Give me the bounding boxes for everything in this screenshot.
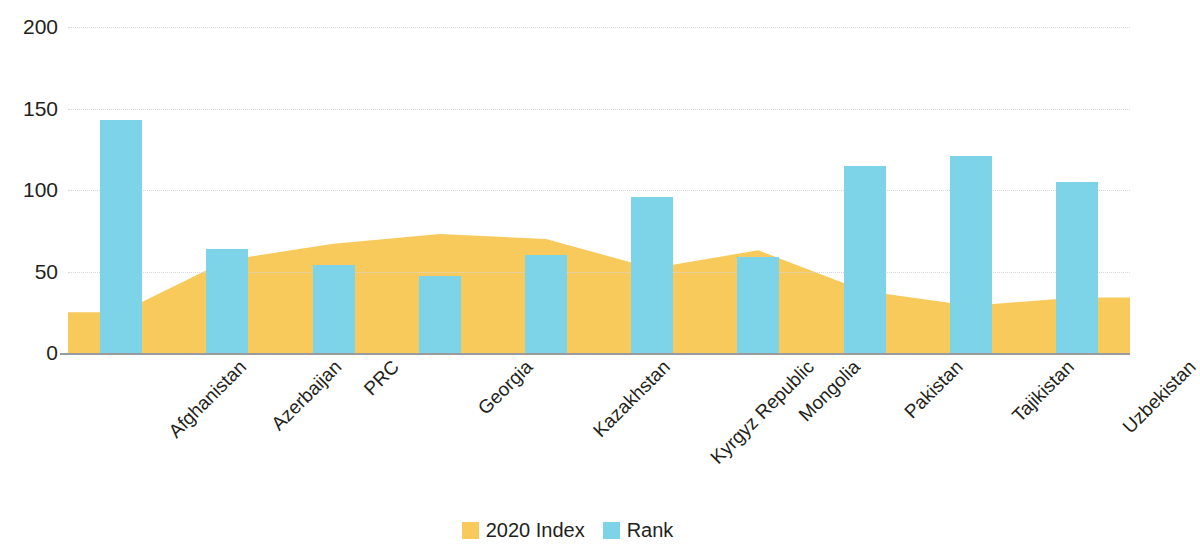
legend-item[interactable]: Rank (603, 520, 674, 540)
bar[interactable] (950, 156, 992, 353)
bar[interactable] (100, 120, 142, 353)
x-axis-label: Uzbekistan (1118, 356, 1200, 438)
x-axis-label: Georgia (473, 356, 536, 419)
chart-legend: 2020 IndexRank (0, 520, 1135, 540)
bar[interactable] (419, 276, 461, 353)
x-axis-label: PRC (359, 356, 403, 400)
bar[interactable] (313, 265, 355, 353)
x-axis-label: Tajikistan (1008, 356, 1079, 427)
x-axis-label: Afghanistan (164, 356, 251, 443)
bar[interactable] (525, 255, 567, 353)
y-axis-tick: 100 (0, 178, 58, 202)
bar[interactable] (631, 197, 673, 353)
gridline (68, 109, 1130, 110)
legend-item[interactable]: 2020 Index (462, 520, 585, 540)
y-axis-tick: 50 (0, 260, 58, 284)
plot-area (68, 27, 1130, 353)
bar[interactable] (737, 257, 779, 353)
x-axis-label: Azerbaijan (268, 356, 347, 435)
legend-label: Rank (627, 520, 674, 540)
legend-swatch-icon (603, 522, 620, 539)
x-axis-label: Kazakhstan (589, 356, 675, 442)
y-axis-tick: 150 (0, 97, 58, 121)
bar[interactable] (1056, 182, 1098, 353)
legend-swatch-icon (462, 522, 479, 539)
gridline (68, 27, 1130, 28)
legend-label: 2020 Index (486, 520, 585, 540)
y-axis-tick: 0 (0, 341, 58, 365)
x-axis-category-labels: AfghanistanAzerbaijanPRCGeorgiaKazakhsta… (68, 356, 1130, 486)
y-axis-tick: 200 (0, 15, 58, 39)
bar[interactable] (206, 249, 248, 353)
x-axis-line (60, 353, 1130, 355)
bar[interactable] (844, 166, 886, 353)
x-axis-label: Pakistan (900, 356, 967, 423)
